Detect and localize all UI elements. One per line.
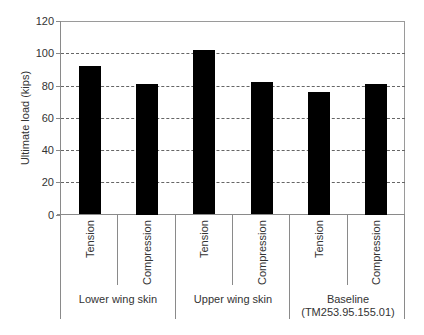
group-label-line: (TM253.95.155.01)	[291, 306, 405, 319]
x-category-label: Tension	[198, 220, 210, 258]
group-label: Baseline(TM253.95.155.01)	[291, 293, 405, 319]
y-tick-label: 120	[20, 15, 54, 27]
gridline	[61, 182, 405, 183]
x-axis	[57, 214, 405, 215]
y-tick-label: 100	[20, 47, 54, 59]
y-tick-mark	[56, 150, 61, 151]
gridline	[61, 53, 405, 54]
x-category-label: Compression	[141, 220, 153, 285]
gridline	[61, 118, 405, 119]
bar-compression	[365, 84, 387, 215]
x-category-label: Tension	[313, 220, 325, 258]
y-axis-label: Ultimate load (kips)	[19, 71, 31, 165]
bar-tension	[308, 92, 330, 215]
bar-compression	[251, 82, 273, 214]
x-category-label: Tension	[84, 220, 96, 258]
category-divider	[232, 215, 233, 285]
x-category-label: Compression	[256, 220, 268, 285]
x-category-label: Compression	[370, 220, 382, 285]
gridline	[61, 150, 405, 151]
y-tick-mark	[56, 182, 61, 183]
bar-compression	[136, 84, 158, 215]
y-tick-mark	[56, 53, 61, 54]
group-label: Upper wing skin	[176, 293, 290, 306]
gridline	[61, 86, 405, 87]
y-tick-label: 20	[20, 176, 54, 188]
bar-chart: 020406080100120 Ultimate load (kips) Ten…	[0, 0, 424, 335]
group-label-line: Upper wing skin	[176, 293, 290, 306]
group-label: Lower wing skin	[61, 293, 175, 306]
y-tick-mark	[56, 86, 61, 87]
category-divider	[117, 215, 118, 285]
group-label-line: Baseline	[291, 293, 405, 306]
category-divider	[347, 215, 348, 285]
y-axis	[60, 21, 61, 319]
y-tick-label: 0	[20, 209, 54, 221]
bar-tension	[193, 50, 215, 214]
y-tick-mark	[56, 21, 61, 22]
y-tick-mark	[56, 215, 61, 216]
group-label-line: Lower wing skin	[61, 293, 175, 306]
y-tick-mark	[56, 118, 61, 119]
bar-tension	[79, 66, 101, 214]
